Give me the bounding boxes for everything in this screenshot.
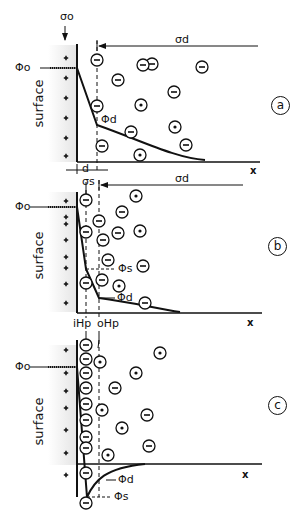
- phid-label-a: Φd: [101, 114, 117, 125]
- panel-c: [30, 339, 262, 509]
- surface-region: [48, 45, 77, 162]
- panel-tag-a: a: [271, 96, 290, 115]
- x-axis-label-b: x: [247, 318, 253, 328]
- phi0-label-b: Φo: [15, 201, 30, 212]
- x-axis-label-c: x: [242, 470, 248, 480]
- sigmad-label-a: σd: [175, 34, 189, 45]
- phid-label-b: Φd: [117, 292, 133, 303]
- phis-label-c: Φs: [114, 491, 128, 502]
- panel-tag-b: b: [268, 237, 287, 256]
- surface-label-c: surface: [31, 397, 46, 445]
- phis-label-b: Φs: [118, 263, 132, 274]
- sigmad-label-b: σd: [175, 173, 189, 184]
- panel-tag-c: c: [268, 396, 287, 415]
- ihp-label: iHp: [73, 318, 91, 329]
- x-axis-label-a: x: [250, 166, 256, 176]
- sigmas-label-b: σs: [82, 176, 95, 187]
- surface-label-b: surface: [31, 231, 46, 279]
- surface-label-a: surface: [31, 79, 46, 127]
- phi0-label-c: Φo: [15, 361, 30, 372]
- phi0-label-a: Φo: [15, 62, 30, 73]
- panel-b: [30, 180, 262, 318]
- sigma0-label: σo: [60, 11, 74, 22]
- phid-label-c: Φd: [118, 474, 134, 485]
- panel-a: [40, 26, 260, 174]
- ohp-label: oHp: [97, 318, 119, 329]
- d-label: d: [82, 163, 89, 174]
